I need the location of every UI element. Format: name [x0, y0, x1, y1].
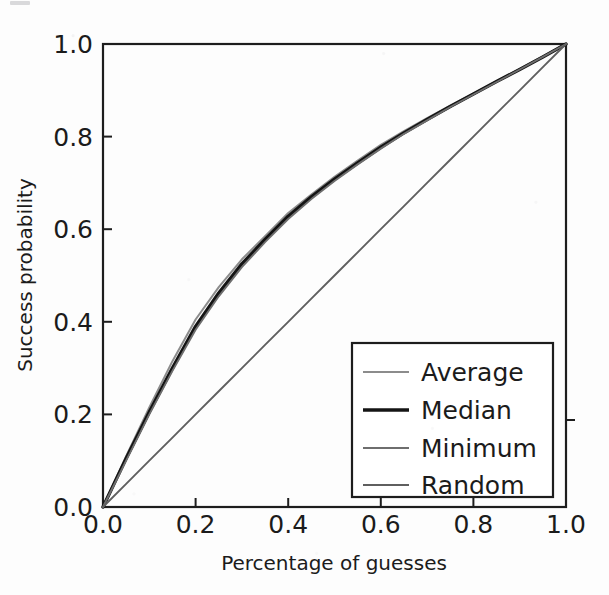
y-tick-labels: 0.0 0.2 0.4 0.6 0.8 1.0 [53, 30, 93, 522]
y-tick-label-5: 1.0 [53, 30, 93, 59]
y-tick-label-3: 0.6 [53, 215, 93, 244]
x-tick-label-4: 0.8 [454, 510, 494, 539]
y-tick-label-2: 0.4 [53, 308, 93, 337]
legend: Average Median Minimum Random [352, 343, 553, 500]
y-tick-label-4: 0.8 [53, 123, 93, 152]
legend-label-average: Average [421, 358, 524, 387]
x-tick-label-1: 0.2 [176, 510, 216, 539]
x-tick-labels: 0.0 0.2 0.4 0.6 0.8 1.0 [83, 510, 586, 539]
line-chart: 0.0 0.2 0.4 0.6 0.8 1.0 0.0 0.2 0.4 0.6 … [0, 0, 609, 595]
x-tick-label-5: 1.0 [546, 510, 586, 539]
y-tick-label-0: 0.0 [53, 493, 93, 522]
legend-label-minimum: Minimum [421, 434, 537, 463]
y-tick-label-1: 0.2 [53, 400, 93, 429]
legend-label-random: Random [421, 471, 525, 500]
y-axis-title: Success probability [13, 178, 37, 372]
x-tick-label-2: 0.4 [268, 510, 308, 539]
y-axis-ticks [103, 44, 112, 507]
legend-label-median: Median [421, 396, 512, 425]
x-tick-label-3: 0.6 [361, 510, 401, 539]
x-axis-title: Percentage of guesses [221, 551, 447, 575]
figure-canvas: 0.0 0.2 0.4 0.6 0.8 1.0 0.0 0.2 0.4 0.6 … [0, 0, 609, 595]
